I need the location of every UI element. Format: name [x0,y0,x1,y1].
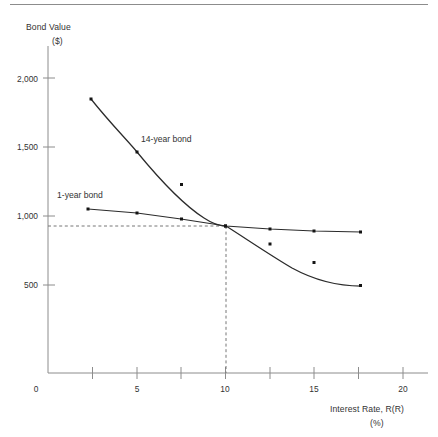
data-point-marker [180,218,183,221]
data-point-marker [136,212,139,215]
data-point-marker [90,98,93,101]
series-1-year-bond [87,208,363,234]
bond-value-chart-figure: Bond Value ($) Interest Rate, R(R) (%) 2… [0,0,438,437]
data-point-marker [313,261,316,264]
data-point-marker [180,183,183,186]
data-point-marker [136,151,139,154]
axis-lines [48,46,428,373]
intersection-guides [48,226,226,373]
data-point-marker [269,243,272,246]
data-point-marker [224,225,227,228]
series-1-year-bond-line [88,209,361,232]
series-14-year-bond-line [91,99,361,286]
y-axis-ticks [43,78,55,285]
plot-area [0,0,438,437]
data-point-marker [359,284,362,287]
series-1-year-bond-markers [87,208,363,234]
data-point-marker [313,230,316,233]
data-point-marker [269,228,272,231]
data-point-marker [359,231,362,234]
series-14-year-bond-markers [90,98,363,288]
series-14-year-bond [90,98,363,288]
data-point-marker [87,208,90,211]
